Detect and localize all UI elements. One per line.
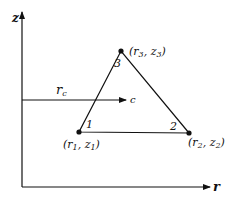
vertex-3-node [118,48,123,53]
z-axis-label: z [11,11,20,25]
centroid-label: c [130,94,136,105]
r-axis-label: r [213,179,221,194]
vertex-1-node [76,129,81,134]
vertex-1-number: 1 [86,118,93,131]
vertex-2-node [186,130,191,135]
vertex-3-number: 3 [114,57,121,70]
diagram-canvas: z r rc c 1 2 3 (r1, z1) (r2, z2) (r3, z3… [0,0,248,199]
vertex-2-coords: (r2, z2) [188,136,225,150]
vertex-1-coords: (r1, z1) [63,138,100,152]
vertex-2-number: 2 [169,120,177,133]
triangle-element-diagram: z r rc c 1 2 3 (r1, z1) (r2, z2) (r3, z3… [0,0,248,199]
vertex-3-coords: (r3, z3) [129,45,166,59]
rc-label: rc [56,82,67,98]
